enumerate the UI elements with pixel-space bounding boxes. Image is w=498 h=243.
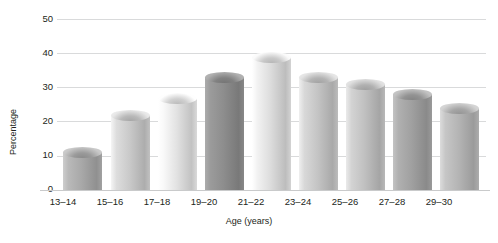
- x-tick-label-29-30: 29–30: [408, 196, 470, 207]
- plot-area: [57, 19, 486, 190]
- bar-17-18: [158, 98, 197, 190]
- gridline-50: [57, 19, 486, 20]
- y-axis-title: Percentage: [8, 35, 18, 155]
- bar-27-28: [393, 94, 432, 190]
- bar-23-24: [299, 77, 338, 190]
- bar-25-26: [346, 84, 385, 190]
- y-tick-label-0: 0: [27, 184, 53, 194]
- y-tick-label-50: 50: [27, 14, 53, 24]
- bar-chart: Percentage 50 40 30 20 10 0 13–14 15–16 …: [0, 0, 498, 243]
- x-axis-title: Age (years): [0, 216, 498, 226]
- bar-29-30: [440, 108, 479, 190]
- y-tick-label-20: 20: [27, 116, 53, 126]
- bar-21-22: [252, 57, 291, 190]
- x-axis-baseline: [40, 190, 490, 191]
- x-axis-title-text: Age (years): [226, 216, 273, 226]
- bar-19-20: [205, 77, 244, 190]
- bar-15-16: [111, 115, 150, 190]
- y-tick-label-40: 40: [27, 48, 53, 58]
- y-tick-label-10: 10: [27, 150, 53, 160]
- bar-13-14: [63, 152, 102, 190]
- y-tick-label-30: 30: [27, 82, 53, 92]
- y-axis-title-text: Percentage: [8, 109, 18, 155]
